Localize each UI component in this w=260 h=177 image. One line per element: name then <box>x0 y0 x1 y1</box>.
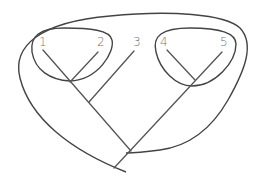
taxon-label-4: 4 <box>160 35 168 49</box>
branch-taxon-3 <box>89 51 134 102</box>
branch-taxon-1 <box>43 50 131 151</box>
branch-taxon-4 <box>167 50 195 80</box>
taxon-label-5: 5 <box>220 35 228 49</box>
cladogram-diagram: 1 2 3 4 5 <box>0 0 260 177</box>
taxon-label-2: 2 <box>97 35 105 49</box>
taxon-label-3: 3 <box>133 35 141 49</box>
taxon-label-1: 1 <box>39 35 47 49</box>
branch-taxon-5 <box>114 52 222 168</box>
